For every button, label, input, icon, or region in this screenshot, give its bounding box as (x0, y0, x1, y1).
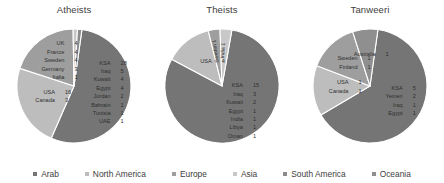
slice-label-name-ksa: KSA (99, 60, 110, 66)
slice-label-value-libya: 1 (253, 124, 256, 130)
slice-label-value-ksa: 15 (253, 82, 259, 88)
slice-label-value-iraq: 5 (121, 68, 124, 74)
slice-label-value-germany: 3 (74, 66, 77, 72)
slice-label-name-kuwait: Kuwait (226, 99, 243, 105)
slice-label-name-germany: Germany (41, 66, 64, 72)
slice-label-name-oman: Oman (228, 133, 243, 139)
slice-label-name-kuwait: Kuwait (94, 76, 111, 82)
legend-swatch-icon (372, 172, 376, 176)
slice-label-name-egypt: Egypt (388, 110, 403, 116)
slice-label-name-usa: USA (200, 58, 212, 64)
slice-label-value-ksa: 5 (413, 85, 416, 91)
legend-label: Arab (41, 169, 59, 179)
slice-label-name-australia: Australia (354, 51, 377, 57)
slice-label-name-ksa: KSA (391, 85, 402, 91)
legend-item-oceania[interactable]: Oceania (372, 169, 411, 179)
legend-item-europe[interactable]: Europe (172, 169, 207, 179)
legend-label: North America (93, 169, 146, 179)
pie-svg-theists: KSA15Iraq3Kuwait2Egypt1India1Libya1Oman1… (158, 22, 286, 150)
slice-label-value-ksa: 28 (121, 60, 127, 66)
slice-label-name-canada: Canada (329, 88, 349, 94)
slice-label-name-france: France (47, 49, 64, 55)
legend-item-arab[interactable]: Arab (33, 169, 59, 179)
slice-label-value-yemen: 2 (413, 93, 416, 99)
slice-label-value-france: 4 (74, 49, 77, 55)
legend-item-north-america[interactable]: North America (85, 169, 146, 179)
slice-label-value-usa: 16 (65, 89, 71, 95)
slice-label-name-iraq: Iraq (393, 102, 403, 108)
slice-label-value-iraq: 1 (413, 102, 416, 108)
slice-label-name-usa: USA (337, 79, 349, 85)
slice-label-value-jordan: 2 (121, 93, 124, 99)
slice-label-name-egypt: Egypt (96, 85, 111, 91)
pie-svg-tanweeri: KSA5Yemen2Iraq1Egypt1USA1Canada1Sweden1F… (306, 22, 434, 150)
slice-label-name-india: India (231, 116, 244, 122)
slice-label-name-egypt: Egypt (229, 108, 244, 114)
slice-label-name-uae: UAE (99, 118, 111, 124)
slice-label-value-egypt: 1 (253, 108, 256, 114)
pie-svg-atheists: KSA28Iraq5Kuwait4Egypt4Jordan2Bahrain1Tu… (10, 22, 138, 150)
slice-label-value-bahrain: 1 (121, 102, 124, 108)
slice-label-value-tunisia: 1 (121, 110, 124, 116)
slice-label-name-jordan: Jordan (93, 93, 110, 99)
legend-swatch-icon (233, 172, 237, 176)
legend-label: South America (291, 169, 345, 179)
slice-label-name-finland: Finland (339, 64, 357, 70)
legend-label: Oceania (380, 169, 411, 179)
legend-item-asia[interactable]: Asia (233, 169, 257, 179)
slice-label-name-bahrain: Bahrain (91, 102, 110, 108)
legend-swatch-icon (172, 172, 176, 176)
page-title-theists: Theists (148, 4, 296, 15)
chart-panel-theists: Theists KSA15Iraq3Kuwait2Egypt1India1Lib… (148, 0, 296, 155)
slice-label-name-iraq: Iraq (101, 68, 111, 74)
slice-label-name-uk: UK (57, 40, 65, 46)
slice-label-name-tunisia: Tunisia (93, 110, 112, 116)
slice-label-name-italia: Italia (53, 74, 66, 80)
slice-label-value-finland: 1 (368, 64, 371, 70)
slice-label-name-yemen: Yemen (385, 93, 402, 99)
slice-label-india: India 1 (219, 43, 226, 59)
legend-label: Europe (180, 169, 207, 179)
slice-label-value-australia: 1 (385, 51, 388, 57)
slice-label-value-uae: 1 (121, 118, 124, 124)
slice-label-value-usa: 1 (358, 79, 361, 85)
chart-panel-atheists: Atheists KSA28Iraq5Kuwait4Egypt4Jordan2B… (0, 0, 148, 155)
slice-label-name-usa: USA (43, 89, 55, 95)
legend-swatch-icon (283, 172, 287, 176)
pie-chart-figure: Atheists KSA28Iraq5Kuwait4Egypt4Jordan2B… (0, 0, 444, 183)
pie-theists: KSA15Iraq3Kuwait2Egypt1India1Libya1Oman1… (158, 22, 286, 150)
chart-legend: ArabNorth AmericaEuropeAsiaSouth America… (0, 169, 444, 179)
slice-label-value-canada: 3 (65, 97, 68, 103)
pie-tanweeri: KSA5Yemen2Iraq1Egypt1USA1Canada1Sweden1F… (306, 22, 434, 150)
slice-label-value-iraq: 3 (253, 91, 256, 97)
slice-label-value-india: 1 (253, 116, 256, 122)
pie-atheists: KSA28Iraq5Kuwait4Egypt4Jordan2Bahrain1Tu… (10, 22, 138, 150)
slice-label-value-sweden: 4 (74, 57, 77, 63)
legend-label: Asia (241, 169, 257, 179)
slice-label-name-sweden: Sweden (44, 57, 64, 63)
slice-label-value-kuwait: 2 (253, 99, 256, 105)
slice-label-value-egypt: 1 (413, 110, 416, 116)
page-title-tanweeri: Tanweeri (296, 4, 444, 15)
legend-swatch-icon (85, 172, 89, 176)
slice-label-value-kuwait: 4 (121, 76, 124, 82)
slice-label-name-ksa: KSA (232, 82, 243, 88)
legend-swatch-icon (33, 172, 37, 176)
slice-label-value-egypt: 4 (121, 85, 124, 91)
legend-item-south-america[interactable]: South America (283, 169, 345, 179)
slice-label-name-libya: Libya (230, 124, 244, 130)
slice-label-name-iraq: Iraq (233, 91, 243, 97)
slice-label-value-italia: 1 (74, 74, 77, 80)
slice-label-value-canada: 1 (358, 88, 361, 94)
slice-label-value-uk: 4 (74, 40, 77, 46)
chart-panel-tanweeri: Tanweeri KSA5Yemen2Iraq1Egypt1USA1Canada… (296, 0, 444, 155)
slice-label-name-canada: Canada (35, 97, 55, 103)
slice-label-value-oman: 1 (253, 133, 256, 139)
page-title-atheists: Atheists (0, 4, 148, 15)
